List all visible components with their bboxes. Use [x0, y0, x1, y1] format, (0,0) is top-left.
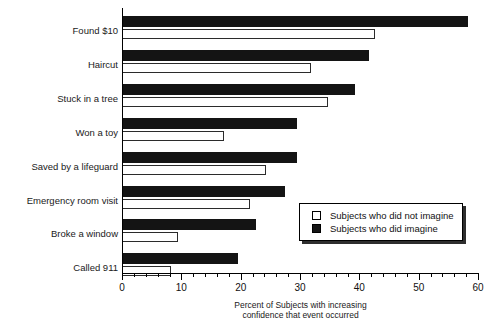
- x-tick-minor: [217, 274, 218, 277]
- legend-label: Subjects who did imagine: [330, 223, 438, 234]
- bar-did-not-imagine: [122, 232, 178, 242]
- x-tick-major: [478, 274, 479, 280]
- bar-did-imagine: [122, 118, 297, 129]
- legend-label: Subjects who did not imagine: [330, 210, 454, 221]
- x-tick-minor: [407, 274, 408, 277]
- x-tick-minor: [276, 274, 277, 277]
- bar-did-not-imagine: [122, 199, 250, 209]
- category-label: Stuck in a tree: [0, 93, 118, 104]
- x-axis-title-line2: confidence that event occurred: [122, 310, 479, 320]
- x-tick-minor: [348, 274, 349, 277]
- x-tick-minor: [264, 274, 265, 277]
- bar-did-imagine: [122, 50, 369, 61]
- legend-swatch-light-icon: [312, 211, 321, 220]
- x-tick-minor: [288, 274, 289, 277]
- x-tick-minor: [134, 274, 135, 277]
- bar-did-not-imagine: [122, 29, 375, 39]
- x-tick-minor: [442, 274, 443, 277]
- x-tick-minor: [312, 274, 313, 277]
- x-tick-label: 60: [463, 282, 493, 294]
- x-tick-minor: [371, 274, 372, 277]
- x-tick-minor: [431, 274, 432, 277]
- category-label: Saved by a lifeguard: [0, 161, 118, 172]
- y-axis-line: [122, 8, 123, 274]
- category-label: Haircut: [0, 59, 118, 70]
- bar-did-not-imagine: [122, 165, 266, 175]
- legend-entry-did-imagine: Subjects who did imagine: [306, 222, 454, 235]
- x-tick-minor: [205, 274, 206, 277]
- x-tick-label: 30: [285, 282, 315, 294]
- x-tick-minor: [324, 274, 325, 277]
- x-tick-minor: [466, 274, 467, 277]
- x-tick-major: [241, 274, 242, 280]
- category-axis-labels: Found $10 Haircut Stuck in a tree Won a …: [0, 0, 118, 272]
- bar-did-not-imagine: [122, 131, 224, 141]
- legend-entry-did-not-imagine: Subjects who did not imagine: [306, 209, 454, 222]
- x-tick-minor: [170, 274, 171, 277]
- bar-did-imagine: [122, 253, 238, 264]
- category-label: Broke a window: [0, 228, 118, 239]
- x-tick-minor: [336, 274, 337, 277]
- x-tick-label: 0: [107, 282, 137, 294]
- x-tick-label: 20: [226, 282, 256, 294]
- x-tick-label: 10: [166, 282, 196, 294]
- bar-did-not-imagine: [122, 63, 311, 73]
- x-tick-minor: [158, 274, 159, 277]
- bar-chart: Found $10 Haircut Stuck in a tree Won a …: [0, 0, 502, 332]
- category-label: Called 911: [0, 262, 118, 273]
- x-axis-title: Percent of Subjects with increasing conf…: [122, 300, 479, 320]
- x-tick-major: [419, 274, 420, 280]
- x-tick-label: 50: [404, 282, 434, 294]
- x-axis-title-line1: Percent of Subjects with increasing: [122, 300, 479, 310]
- x-tick-major: [181, 274, 182, 280]
- x-tick-major: [122, 274, 123, 280]
- x-tick-minor: [383, 274, 384, 277]
- bar-did-imagine: [122, 152, 297, 163]
- x-tick-minor: [253, 274, 254, 277]
- bar-did-not-imagine: [122, 97, 328, 107]
- category-label: Found $10: [0, 25, 118, 36]
- bar-did-imagine: [122, 186, 285, 197]
- x-tick-minor: [146, 274, 147, 277]
- x-tick-major: [359, 274, 360, 280]
- x-tick-minor: [193, 274, 194, 277]
- legend-swatch-dark-icon: [312, 224, 321, 233]
- x-tick-minor: [229, 274, 230, 277]
- bar-did-imagine: [122, 84, 355, 95]
- x-tick-minor: [454, 274, 455, 277]
- x-tick-major: [300, 274, 301, 280]
- bar-did-imagine: [122, 16, 468, 27]
- legend: Subjects who did not imagine Subjects wh…: [299, 203, 463, 241]
- category-label: Emergency room visit: [0, 195, 118, 206]
- x-tick-label: 40: [344, 282, 374, 294]
- category-label: Won a toy: [0, 127, 118, 138]
- x-tick-minor: [395, 274, 396, 277]
- bar-did-imagine: [122, 219, 256, 230]
